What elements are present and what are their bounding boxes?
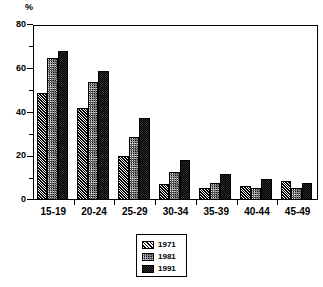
bar-1991-15-19 bbox=[58, 51, 69, 200]
bar-chart: % 020406080 15-1920-2425-2930-3435-3940-… bbox=[0, 0, 323, 287]
bar-1991-45-49 bbox=[302, 183, 313, 201]
x-axis-category-label: 45-49 bbox=[277, 206, 318, 218]
legend-swatch-1981-icon bbox=[142, 253, 154, 261]
x-axis-category-label: 30-34 bbox=[155, 206, 196, 218]
y-axis-minor-tick bbox=[29, 46, 33, 47]
legend-label-1981: 1981 bbox=[158, 252, 176, 261]
bar-1981-20-24 bbox=[88, 82, 99, 200]
x-axis-tick bbox=[74, 200, 75, 205]
bar-1991-30-34 bbox=[180, 160, 191, 200]
legend-label-1971: 1971 bbox=[158, 240, 176, 249]
y-axis-unit-label: % bbox=[25, 2, 33, 12]
x-axis-category-label: 35-39 bbox=[196, 206, 237, 218]
bar-1971-35-39 bbox=[199, 188, 210, 200]
legend-item-1991: 1991 bbox=[142, 263, 186, 274]
bar-1981-40-44 bbox=[251, 188, 262, 200]
x-axis-tick bbox=[237, 200, 238, 205]
bar-1971-40-44 bbox=[240, 186, 251, 200]
legend-item-1971: 1971 bbox=[142, 239, 186, 250]
x-axis-category-label: 15-19 bbox=[33, 206, 74, 218]
bar-1991-35-39 bbox=[220, 174, 231, 200]
y-axis-tick bbox=[27, 68, 33, 69]
x-axis-category-label: 20-24 bbox=[74, 206, 115, 218]
x-axis-tick bbox=[196, 200, 197, 205]
bar-1981-30-34 bbox=[169, 172, 180, 200]
bar-1991-25-29 bbox=[139, 118, 150, 200]
y-axis-tick-label: 80 bbox=[2, 20, 26, 29]
legend: 1971 1981 1991 bbox=[136, 234, 187, 277]
y-axis-minor-tick bbox=[29, 178, 33, 179]
bar-1991-40-44 bbox=[261, 179, 272, 200]
y-axis-minor-tick bbox=[29, 134, 33, 135]
y-axis-tick bbox=[27, 199, 33, 200]
x-axis-tick bbox=[114, 200, 115, 205]
legend-swatch-1971-icon bbox=[142, 241, 154, 249]
bar-1981-25-29 bbox=[129, 137, 140, 200]
bar-1971-30-34 bbox=[159, 184, 170, 200]
y-axis-minor-tick bbox=[29, 90, 33, 91]
y-axis-tick-label: 0 bbox=[2, 195, 26, 204]
x-axis-tick bbox=[277, 200, 278, 205]
bar-1981-35-39 bbox=[210, 183, 221, 201]
legend-swatch-1991-icon bbox=[142, 265, 154, 273]
x-axis-tick bbox=[155, 200, 156, 205]
y-axis-tick-label: 60 bbox=[2, 64, 26, 73]
x-axis-category-label: 25-29 bbox=[114, 206, 155, 218]
legend-label-1991: 1991 bbox=[158, 264, 176, 273]
bar-1981-45-49 bbox=[291, 188, 302, 200]
bar-1981-15-19 bbox=[47, 58, 58, 200]
y-axis-tick bbox=[27, 156, 33, 157]
x-axis-category-label: 40-44 bbox=[237, 206, 278, 218]
bar-1971-45-49 bbox=[281, 181, 292, 200]
bar-1971-15-19 bbox=[37, 93, 48, 200]
bar-1971-25-29 bbox=[118, 156, 129, 200]
y-axis-tick bbox=[27, 24, 33, 25]
y-axis-tick-label: 40 bbox=[2, 108, 26, 117]
bar-1991-20-24 bbox=[98, 71, 109, 200]
bar-1971-20-24 bbox=[77, 108, 88, 200]
y-axis-tick-label: 20 bbox=[2, 151, 26, 160]
y-axis-tick bbox=[27, 112, 33, 113]
legend-item-1981: 1981 bbox=[142, 251, 186, 262]
